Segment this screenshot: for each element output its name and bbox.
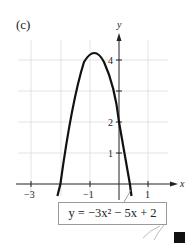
- svg-text:2: 2: [108, 117, 113, 128]
- svg-text:−1: −1: [83, 189, 94, 200]
- svg-text:y: y: [116, 19, 122, 30]
- parabola-curve: [57, 53, 131, 196]
- equation-pointer: [124, 190, 131, 202]
- svg-text:−3: −3: [24, 189, 35, 200]
- svg-text:4: 4: [108, 55, 113, 66]
- x-axis: [16, 181, 178, 187]
- tick-labels: −3 −1 1 4 2 1 y x: [24, 19, 185, 200]
- svg-text:1: 1: [108, 148, 113, 159]
- end-of-proof-square-icon: [174, 232, 185, 243]
- svg-text:x: x: [179, 178, 185, 189]
- svg-text:1: 1: [145, 189, 150, 200]
- equation-label: y = −3x² − 5x + 2: [58, 202, 167, 225]
- pencil-mark: [143, 225, 164, 240]
- grid: [18, 40, 168, 196]
- panel-label: (c): [16, 17, 30, 33]
